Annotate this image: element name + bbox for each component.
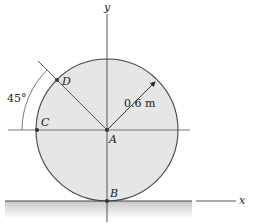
point-A [105, 128, 109, 132]
y-axis-label: y [103, 1, 111, 14]
point-C-label: C [41, 116, 50, 129]
point-D [55, 78, 59, 82]
ground-surface [5, 201, 192, 219]
angle-label: 45° [7, 92, 27, 105]
point-B-label: B [109, 187, 118, 200]
point-C [35, 128, 39, 132]
point-D-label: D [61, 75, 71, 88]
disk-diagram: x y 45° 0.6 m A B C D [0, 0, 264, 223]
point-B [105, 199, 109, 203]
radius-label: 0.6 m [124, 97, 156, 110]
x-axis-label: x [239, 194, 246, 207]
point-A-label: A [108, 133, 117, 146]
